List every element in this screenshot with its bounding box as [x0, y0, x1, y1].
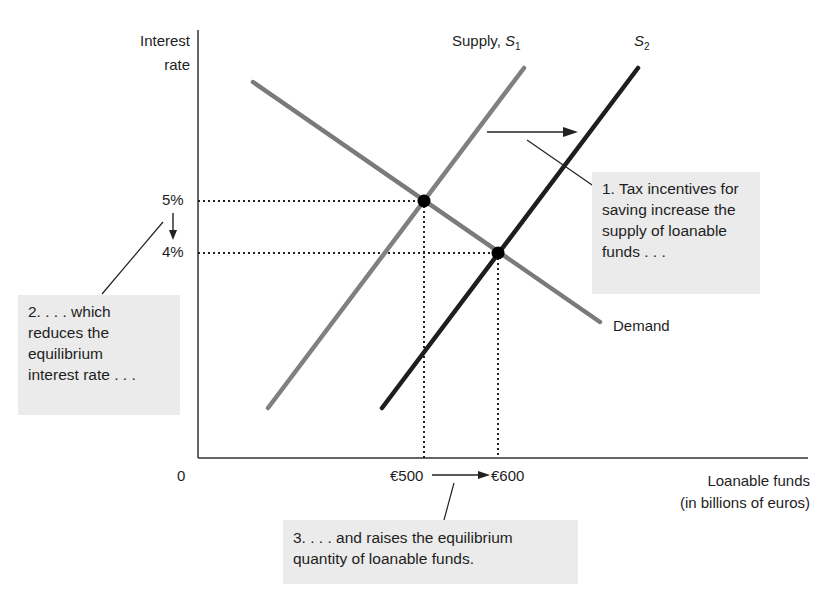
x-tick-600: €600	[491, 467, 524, 485]
shift-arrow-head	[563, 127, 578, 137]
x-axis-label: Loanable funds (in billions of euros)	[610, 472, 810, 512]
leader-line-3	[444, 483, 454, 520]
x-axis-label-line1: Loanable funds	[610, 472, 810, 490]
origin-label: 0	[177, 467, 185, 485]
callout-2-line: reduces the	[28, 322, 170, 343]
equilibrium-point-1	[418, 195, 431, 208]
demand-label: Demand	[613, 317, 670, 335]
callout-2-line: interest rate . . .	[28, 364, 170, 385]
callout-1-tax-incentives: 1. Tax incentives for saving increase th…	[592, 172, 760, 294]
y-tick-4pct: 4%	[162, 243, 184, 261]
y-axis-label: Interest rate	[128, 32, 190, 74]
callout-1-line: 1. Tax incentives for	[602, 178, 750, 199]
callout-2-line: 2. . . . which	[28, 301, 170, 322]
leader-line-2	[102, 222, 163, 294]
supply-s2-label: S2	[634, 32, 650, 56]
supply-s1-symbol: S	[505, 32, 515, 49]
leader-line-1	[527, 140, 595, 187]
y-axis-label-line2: rate	[128, 56, 190, 74]
rate-down-arrow-head	[169, 230, 177, 240]
callout-2-line: equilibrium	[28, 343, 170, 364]
callout-1-line: funds . . .	[602, 241, 750, 262]
callout-3-raises-quantity: 3. . . . and raises the equilibrium quan…	[283, 520, 578, 584]
callout-3-line: quantity of loanable funds.	[293, 548, 568, 569]
x-axis-label-line2: (in billions of euros)	[610, 494, 810, 512]
callout-2-reduces-rate: 2. . . . which reduces the equilibrium i…	[18, 295, 180, 415]
supply-s2-symbol: S	[634, 32, 644, 49]
supply-s1-text: Supply,	[452, 32, 505, 49]
supply-s1-label: Supply, S1	[452, 32, 521, 56]
callout-1-line: saving increase the	[602, 199, 750, 220]
quantity-right-arrow-head	[478, 471, 490, 479]
y-tick-5pct: 5%	[162, 191, 184, 209]
supply-s2-sub: 2	[644, 41, 650, 52]
supply-s1-sub: 1	[515, 41, 521, 52]
equilibrium-point-2	[492, 247, 505, 260]
x-tick-500: €500	[390, 467, 423, 485]
callout-3-line: 3. . . . and raises the equilibrium	[293, 527, 568, 548]
y-axis-label-line1: Interest	[128, 32, 190, 50]
callout-1-line: supply of loanable	[602, 220, 750, 241]
